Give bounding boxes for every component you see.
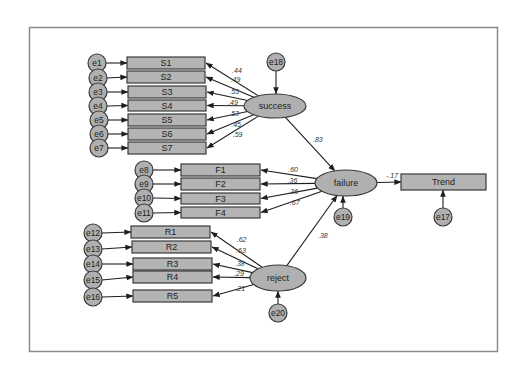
coef-reject-failure: .38 (318, 232, 328, 239)
observed-R1[interactable]: R1 (131, 226, 210, 238)
sem-diagram: .44.49.55.49.53.45.59.60.36.36.67.62.63.… (0, 0, 532, 374)
error-label: e11 (137, 208, 151, 218)
coef-F3: .36 (288, 188, 298, 195)
error-label: e3 (93, 87, 103, 97)
loading-reject-R4 (213, 277, 250, 278)
observed-label: R4 (167, 272, 179, 282)
latent-success[interactable]: success (244, 94, 306, 118)
error-e14[interactable]: e14 (84, 255, 102, 273)
observed-label: F4 (215, 208, 226, 218)
observed-S5[interactable]: S5 (128, 114, 206, 126)
error-label: e19 (336, 212, 350, 222)
error-e18[interactable]: e18 (267, 53, 285, 71)
observed-R3[interactable]: R3 (133, 258, 212, 270)
error-arrow-e11 (153, 213, 181, 214)
error-e11[interactable]: e11 (135, 204, 153, 222)
error-label: e1 (92, 58, 102, 68)
error-label: e7 (94, 143, 104, 153)
coef-F1: .60 (288, 166, 298, 173)
error-e7[interactable]: e7 (90, 139, 108, 157)
coef-S3: .55 (229, 88, 239, 95)
coef-R5: .21 (235, 285, 245, 292)
observed-R4[interactable]: R4 (133, 271, 212, 283)
observed-F4[interactable]: F4 (181, 207, 260, 218)
observed-label: S4 (161, 101, 172, 111)
coef-R4: .29 (234, 270, 244, 277)
coef-R3: .38 (235, 260, 245, 267)
observed-F2[interactable]: F2 (181, 178, 260, 190)
observed-label: S7 (161, 143, 172, 153)
error-label: e14 (86, 259, 100, 269)
coef-R1: .62 (237, 236, 247, 243)
error-label: e4 (93, 101, 103, 111)
error-label: e6 (94, 129, 104, 139)
error-label: e5 (94, 115, 104, 125)
latent-label: reject (267, 273, 290, 283)
coef-F2: .36 (288, 177, 298, 184)
latent-reject[interactable]: reject (250, 265, 306, 291)
error-label: e18 (269, 57, 283, 67)
observed-label: S2 (160, 72, 171, 82)
coef-failure-trend: -.17 (386, 172, 399, 179)
error-label: e8 (139, 165, 149, 175)
error-e20[interactable]: e20 (269, 304, 287, 322)
latent-failure[interactable]: failure (315, 170, 377, 196)
error-label: e10 (137, 193, 151, 203)
error-e15[interactable]: e15 (84, 271, 102, 289)
observed-S4[interactable]: S4 (128, 100, 206, 111)
coef-S6: .45 (231, 121, 241, 128)
error-e17[interactable]: e17 (434, 208, 452, 226)
error-e19[interactable]: e19 (334, 208, 352, 226)
observed-Trend[interactable]: Trend (401, 174, 486, 190)
coef-S7: .59 (233, 131, 243, 138)
observed-label: R5 (167, 291, 179, 301)
observed-label: F1 (215, 165, 226, 175)
observed-S1[interactable]: S1 (127, 57, 205, 69)
error-label: e9 (139, 179, 149, 189)
error-label: e16 (86, 292, 100, 302)
observed-S3[interactable]: S3 (128, 86, 206, 98)
observed-S6[interactable]: S6 (128, 128, 206, 140)
error-label: e17 (436, 212, 450, 222)
observed-F3[interactable]: F3 (181, 193, 260, 204)
observed-label: S3 (161, 87, 172, 97)
coef-F4: .67 (290, 199, 301, 206)
observed-R2[interactable]: R2 (132, 241, 211, 253)
coef-S5: .53 (229, 110, 239, 117)
error-label: e15 (86, 275, 100, 285)
coef-S4: .49 (228, 99, 238, 106)
error-label: e20 (271, 308, 285, 318)
observed-label: R1 (165, 227, 177, 237)
observed-label: S5 (161, 115, 172, 125)
error-arrow-e4 (107, 106, 128, 107)
observed-label: R3 (167, 259, 179, 269)
observed-S2[interactable]: S2 (127, 71, 205, 83)
coef-success-failure: .83 (313, 136, 323, 143)
error-arrow-e10 (153, 198, 181, 199)
observed-label: S1 (160, 58, 171, 68)
error-e16[interactable]: e16 (84, 288, 102, 306)
observed-label: F2 (215, 179, 226, 189)
observed-label: Trend (432, 177, 455, 187)
observed-label: S6 (161, 129, 172, 139)
observed-label: R2 (166, 242, 178, 252)
observed-label: F3 (215, 194, 226, 204)
error-label: e12 (86, 228, 100, 238)
error-e12[interactable]: e12 (84, 224, 102, 242)
coef-R2: .63 (236, 247, 246, 254)
observed-S7[interactable]: S7 (128, 142, 206, 154)
observed-R5[interactable]: R5 (133, 290, 212, 302)
coef-S2: .49 (231, 76, 241, 83)
latent-label: failure (334, 178, 359, 188)
coef-S1: .44 (232, 67, 242, 74)
observed-F1[interactable]: F1 (181, 164, 260, 176)
error-label: e2 (93, 73, 103, 83)
error-label: e13 (86, 244, 100, 254)
latent-label: success (259, 101, 292, 111)
